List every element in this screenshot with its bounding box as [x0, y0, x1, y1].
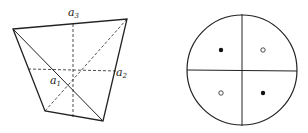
diagonal-dashed: [45, 19, 127, 111]
filled-dot-icon: [219, 48, 223, 52]
open-circle-icon: [261, 48, 265, 52]
filled-dot-icon: [261, 91, 265, 95]
label-a3: a3: [68, 6, 80, 20]
diagonal-solid: [13, 29, 103, 121]
diagram-canvas: a3 a2 a1: [0, 0, 308, 133]
horizontal-divider: [187, 70, 297, 71]
stereogram-figure: [187, 14, 297, 126]
open-circle-icon: [219, 91, 223, 95]
label-a2: a2: [116, 66, 128, 80]
tetrahedron-figure: [13, 19, 127, 121]
